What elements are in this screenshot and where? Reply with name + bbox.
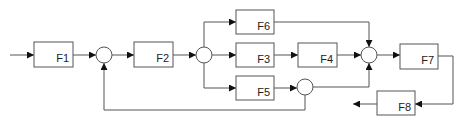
block-f6-label: F6 [257, 20, 270, 32]
block-f8-label: F8 [398, 101, 411, 113]
block-f4-label: F4 [320, 53, 333, 65]
block-diagram: F1 F2 F3 F4 F5 F6 F7 F8 [0, 0, 468, 122]
wire-s2-f6 [204, 22, 236, 47]
block-f7: F7 [400, 44, 438, 69]
block-f8: F8 [377, 91, 415, 115]
summing-junction-s1 [96, 47, 112, 63]
block-f6: F6 [236, 10, 274, 34]
summing-junction-s2 [196, 47, 212, 63]
block-f1: F1 [34, 42, 73, 67]
block-f3: F3 [236, 43, 274, 67]
block-f3-label: F3 [257, 53, 270, 65]
block-f1-label: F1 [56, 52, 69, 64]
block-f2: F2 [134, 42, 173, 67]
wire-s2-f5 [204, 63, 236, 88]
block-f4: F4 [298, 43, 337, 67]
block-f7-label: F7 [421, 54, 434, 66]
summing-junction-s3 [361, 47, 377, 63]
block-f5: F5 [236, 76, 274, 100]
block-f5-label: F5 [257, 86, 270, 98]
block-f2-label: F2 [156, 52, 169, 64]
summing-junction-s4 [297, 79, 313, 95]
